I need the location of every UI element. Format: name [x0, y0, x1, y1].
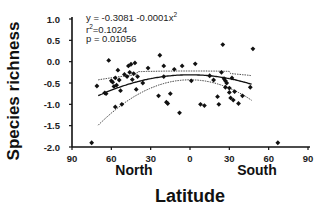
data-point: [275, 140, 280, 145]
data-point: [131, 71, 136, 76]
data-point: [227, 90, 232, 95]
data-point: [134, 87, 139, 92]
x-tick-label: 0: [187, 153, 192, 164]
data-point: [198, 102, 203, 107]
data-point: [89, 140, 94, 145]
y-tick-label: -1.5: [44, 120, 61, 131]
data-point: [130, 77, 135, 82]
data-point: [189, 78, 194, 83]
data-point: [115, 68, 120, 73]
data-point: [193, 61, 198, 66]
north-label: North: [115, 162, 152, 178]
data-point: [251, 46, 256, 51]
data-point: [113, 75, 118, 80]
data-point: [161, 64, 166, 69]
data-point: [95, 84, 100, 89]
data-point: [215, 94, 220, 99]
y-tick-label: -0.5: [44, 78, 61, 89]
data-point: [216, 102, 221, 107]
y-tick-label: 0.5: [47, 35, 61, 46]
y-tick-label: 0.0: [47, 56, 60, 67]
x-tick-label: 90: [303, 153, 314, 164]
y-axis-title: Species richness: [4, 22, 24, 161]
x-axis-title: Latitude: [155, 186, 225, 207]
data-point: [157, 53, 162, 58]
south-label: South: [237, 162, 277, 178]
data-point: [227, 86, 232, 91]
data-point: [146, 66, 151, 71]
data-point: [236, 101, 241, 106]
y-tick-label: -1.0: [44, 99, 60, 110]
data-point: [223, 85, 228, 90]
data-point: [232, 89, 237, 94]
data-points: [89, 42, 280, 145]
data-point: [168, 91, 173, 96]
data-point: [118, 88, 123, 93]
data-point: [219, 70, 224, 75]
data-point: [119, 102, 124, 107]
y-tick-label: 1.0: [47, 14, 60, 25]
p-value-label: p = 0.01056: [86, 34, 136, 44]
x-tick-label: 90: [67, 153, 78, 164]
data-point: [117, 78, 122, 83]
data-point: [127, 70, 132, 75]
data-point: [177, 110, 182, 115]
data-point: [161, 74, 166, 79]
data-point: [220, 42, 225, 47]
data-point: [202, 103, 207, 108]
data-point: [133, 61, 138, 66]
y-tick-label: -2.0: [44, 142, 60, 153]
data-point: [180, 64, 185, 69]
axes: 1.00.50.0-0.5-1.0-1.5-2.09060300306090: [44, 14, 314, 165]
data-point: [211, 78, 216, 83]
data-point: [207, 73, 212, 78]
data-point: [156, 93, 161, 98]
scatter-plot: 1.00.50.0-0.5-1.0-1.5-2.09060300306090: [0, 0, 333, 216]
x-tick-label: 30: [224, 153, 235, 164]
data-point: [106, 58, 111, 63]
data-point: [248, 85, 253, 90]
